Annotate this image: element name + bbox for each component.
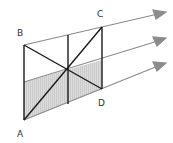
label-D: D [98,98,105,108]
parallelogram-diagram: B A C D [0,0,173,143]
label-A: A [17,129,24,139]
label-C: C [97,9,103,19]
label-B: B [17,28,23,38]
arrowhead-top-icon [153,10,166,19]
arrowhead-bottom-icon [153,62,166,71]
shaded-region [24,60,102,120]
arrowhead-middle-icon [153,37,166,46]
diagram-canvas: B A C D [0,0,173,143]
